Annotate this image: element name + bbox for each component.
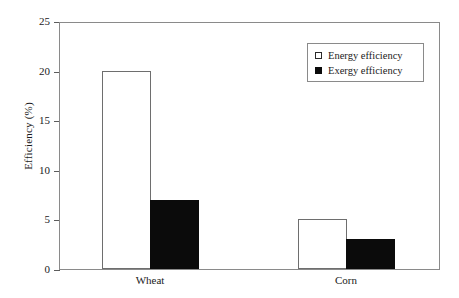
bar-corn-energy — [298, 219, 347, 269]
legend-item-exergy-efficiency: Exergy efficiency — [315, 63, 423, 78]
bar-wheat-energy — [102, 71, 151, 269]
y-tick-label: 15 — [6, 115, 50, 126]
y-tick-label: 20 — [6, 66, 50, 77]
y-tick-label: 25 — [6, 16, 50, 27]
legend-label: Exergy efficiency — [328, 65, 403, 76]
legend-label: Energy efficiency — [328, 50, 403, 61]
legend-box: Energy efficiency Exergy efficiency — [307, 43, 424, 82]
y-tick-label-wrap: 25 — [0, 16, 50, 27]
y-tick-label: 5 — [6, 214, 50, 225]
open-square-icon — [315, 52, 322, 59]
filled-square-icon — [315, 67, 322, 74]
y-tick-label-wrap: 5 — [0, 214, 50, 225]
x-tick-label-wheat: Wheat — [110, 274, 190, 286]
y-tick-mark — [54, 270, 60, 271]
x-tick-label-corn: Corn — [306, 274, 386, 286]
y-tick-label-wrap: 0 — [0, 264, 50, 275]
y-tick-label-wrap: 10 — [0, 165, 50, 176]
legend-item-energy-efficiency: Energy efficiency — [315, 48, 423, 63]
bar-wheat-exergy — [150, 200, 199, 269]
bar-corn-exergy — [346, 239, 395, 269]
y-axis-title: Efficiency (%) — [22, 56, 34, 216]
bar-chart-figure: Efficiency (%) 0510152025 WheatCorn Ener… — [0, 0, 459, 298]
y-tick-label: 0 — [6, 264, 50, 275]
y-tick-label-wrap: 20 — [0, 66, 50, 77]
y-tick-label: 10 — [6, 165, 50, 176]
y-tick-label-wrap: 15 — [0, 115, 50, 126]
